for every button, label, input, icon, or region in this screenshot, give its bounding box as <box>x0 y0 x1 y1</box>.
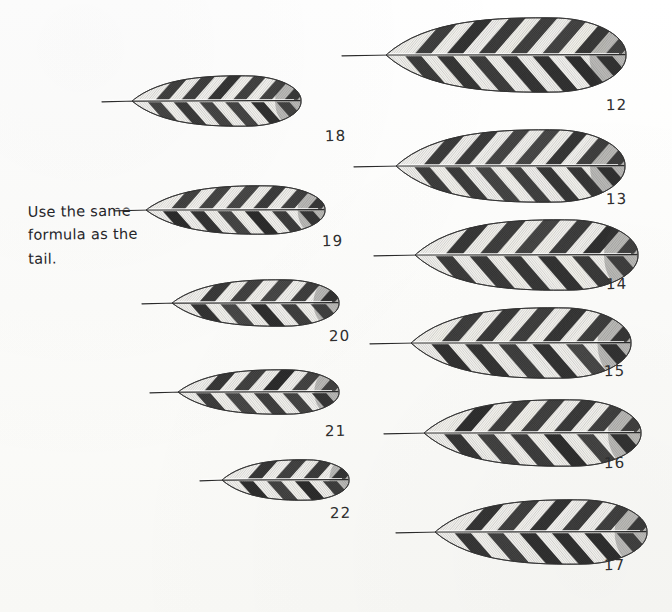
feather-19 <box>112 178 332 242</box>
feather-plate: Use the same formula as the tail. 181920… <box>0 0 672 612</box>
feather-22 <box>198 452 356 508</box>
feather-label-20: 20 <box>329 327 350 345</box>
feather-13 <box>352 122 632 210</box>
feather-18 <box>100 68 308 134</box>
feather-label-15: 15 <box>604 362 625 380</box>
feather-label-14: 14 <box>606 275 627 293</box>
feather-label-18: 18 <box>325 127 346 145</box>
feather-15 <box>368 300 638 386</box>
feather-label-21: 21 <box>325 422 346 440</box>
feather-label-19: 19 <box>322 232 343 250</box>
feather-label-22: 22 <box>330 504 351 522</box>
feather-14 <box>372 212 645 298</box>
feather-label-13: 13 <box>606 190 627 208</box>
feather-21 <box>148 362 346 422</box>
feather-label-17: 17 <box>604 556 625 574</box>
feather-label-16: 16 <box>604 454 625 472</box>
feather-12 <box>340 10 633 100</box>
feather-20 <box>140 272 346 334</box>
feather-label-12: 12 <box>606 96 627 114</box>
